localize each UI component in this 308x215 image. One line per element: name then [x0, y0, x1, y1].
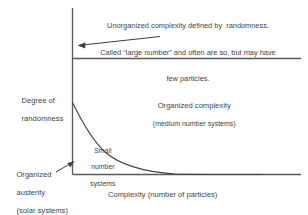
- unorganized-complexity-note: Unorganized complexity defined by random…: [70, 5, 306, 101]
- small-number-systems-label: Small number systems: [78, 139, 120, 196]
- organized-complexity-line-1: Organized complexity: [158, 101, 231, 110]
- organized-austerity-line-2: austerity: [16, 188, 45, 197]
- organized-complexity-line-2: (medium number systems): [153, 120, 236, 127]
- small-number-systems-line-3: systems: [90, 180, 115, 187]
- diagram-canvas: Unorganized complexity defined by random…: [0, 0, 308, 215]
- organized-austerity-label: Organized austerity (solar systems): [8, 162, 70, 215]
- organized-austerity-line-1: Organized: [16, 170, 51, 179]
- organized-complexity-label: Organized complexity (medium number syst…: [130, 93, 250, 138]
- y-axis-label: Degree of randomness: [13, 88, 71, 133]
- organized-austerity-line-3: (solar systems): [16, 206, 67, 215]
- x-axis-label: Complexity (number of particles): [108, 191, 288, 200]
- small-number-systems-line-1: Small: [94, 147, 111, 154]
- unorganized-complexity-note-line-1: Unorganized complexity defined by random…: [70, 22, 306, 31]
- small-number-systems-line-2: number: [91, 163, 114, 170]
- y-axis-label-line-1: Degree of: [21, 96, 54, 105]
- y-axis-label-line-2: randomness: [21, 114, 63, 123]
- unorganized-complexity-note-line-2: Called “large number” and often are so, …: [70, 49, 306, 58]
- unorganized-complexity-note-line-3: few particles.: [70, 75, 306, 84]
